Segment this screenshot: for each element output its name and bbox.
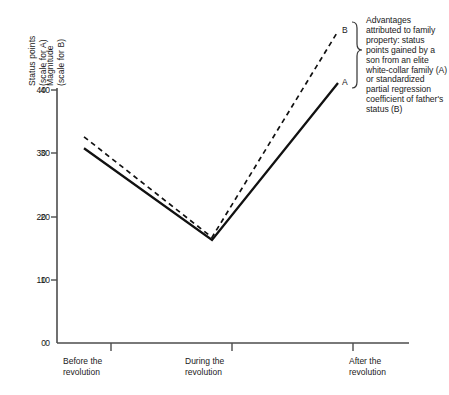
series-group-bracket: [352, 22, 362, 88]
series-b-dashed-line: [84, 31, 338, 237]
x-tick-label-after-line2: revolution: [349, 367, 386, 377]
x-tick-label-before: Before the revolution: [63, 356, 159, 377]
series-label-b: B: [342, 25, 348, 35]
x-axis-ticks: [111, 343, 353, 351]
x-tick-label-after: After the revolution: [349, 356, 445, 377]
x-tick-label-during-line1: During the: [185, 356, 224, 366]
x-tick-label-before-line2: revolution: [63, 367, 100, 377]
chart-figure: Status points (scale for A) Magnitude (s…: [0, 0, 449, 395]
series-a-solid-line: [84, 83, 338, 240]
y-axis-ticks: [51, 90, 57, 280]
x-tick-label-before-line1: Before the: [63, 356, 102, 366]
x-tick-label-during-line2: revolution: [185, 367, 222, 377]
chart-annotation: Advantages attributed to family property…: [366, 16, 448, 115]
x-tick-label-during: During the revolution: [185, 356, 281, 377]
series-label-a: A: [342, 77, 348, 87]
x-tick-label-after-line1: After the: [349, 356, 381, 366]
